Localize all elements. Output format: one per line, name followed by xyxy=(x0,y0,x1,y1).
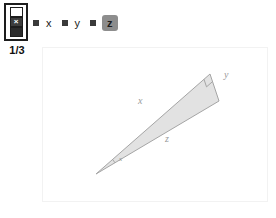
step-cell-2[interactable]: × xyxy=(10,17,23,27)
variable-item-z[interactable]: z xyxy=(90,15,118,31)
close-icon: × xyxy=(14,18,19,26)
variable-label-x: x xyxy=(45,17,53,29)
variable-label-y: y xyxy=(74,17,82,29)
square-marker-icon xyxy=(62,20,68,26)
variable-item-y[interactable]: y xyxy=(62,17,82,29)
figure-canvas[interactable]: x y z x xyxy=(42,47,268,202)
triangle-shape[interactable] xyxy=(96,74,219,174)
variable-item-x[interactable]: x xyxy=(33,17,53,29)
square-marker-icon xyxy=(33,20,39,26)
variable-legend: x y z xyxy=(33,12,127,34)
variable-label-z: z xyxy=(102,15,118,31)
step-cell-1[interactable] xyxy=(10,7,23,17)
side-label-x: x xyxy=(137,95,143,106)
toolbar: × 1/3 x y z xyxy=(0,0,276,44)
step-counter: 1/3 xyxy=(4,44,30,56)
square-marker-icon xyxy=(90,20,96,26)
side-label-y: y xyxy=(223,69,229,80)
step-cell-3[interactable] xyxy=(10,27,23,37)
triangle-diagram: x y z x xyxy=(43,48,269,203)
side-label-z: z xyxy=(164,133,169,144)
step-selector-icon[interactable]: × xyxy=(4,3,28,41)
